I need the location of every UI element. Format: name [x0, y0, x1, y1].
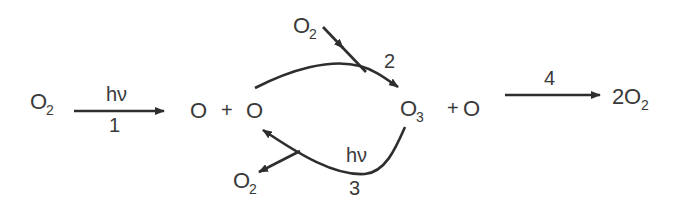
svg-text:O: O	[233, 168, 250, 193]
reaction-4-number: 4	[544, 67, 555, 89]
species-o-atom-3: O	[463, 96, 480, 121]
svg-text:2: 2	[612, 84, 624, 109]
reaction-1-number: 1	[109, 114, 120, 136]
o2-incoming-line	[342, 47, 366, 72]
reaction-3-curve-arrow	[263, 127, 405, 174]
svg-text:O: O	[400, 96, 417, 121]
reaction-2-number: 2	[384, 50, 395, 72]
species-o-atom-2: O	[246, 98, 263, 123]
svg-text:O: O	[30, 89, 47, 114]
o2-incoming-arrow	[323, 27, 343, 48]
species-o2-bottom: O 2	[233, 168, 257, 197]
species-o2-reactant: O 2	[30, 89, 54, 118]
svg-text:O: O	[624, 84, 641, 109]
svg-text:2: 2	[46, 102, 54, 118]
species-2o2-product: 2 O 2	[612, 84, 649, 113]
species-o-atom-1: O	[190, 98, 207, 123]
reaction-3-condition: hν	[346, 144, 367, 166]
reaction-2-curve-arrow	[255, 63, 398, 88]
svg-text:2: 2	[641, 97, 649, 113]
species-o2-top: O 2	[293, 13, 317, 42]
svg-text:2: 2	[249, 181, 257, 197]
species-o3: O 3	[400, 96, 424, 125]
svg-text:3: 3	[416, 109, 424, 125]
reaction-3-number: 3	[349, 177, 360, 199]
reaction-1-condition: hν	[106, 83, 127, 105]
plus-sign-2: +	[447, 97, 459, 119]
plus-sign-1: +	[221, 99, 233, 121]
svg-text:O: O	[293, 13, 310, 38]
chapman-cycle-diagram: O 2 hν 1 O + O O 2 2 O 3 + O 4 2 O 2 O 2…	[0, 0, 680, 206]
o2-outgoing-arrow	[259, 151, 300, 172]
svg-text:2: 2	[309, 26, 317, 42]
